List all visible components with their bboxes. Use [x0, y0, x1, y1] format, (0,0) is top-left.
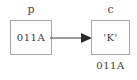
arrow-right-icon — [50, 30, 94, 46]
pointer-variable-value: 011A — [10, 32, 52, 43]
pointer-variable-name-label: p — [10, 3, 52, 16]
target-variable-value: 'K' — [91, 32, 130, 43]
target-variable-address-label: 011A — [88, 60, 133, 71]
pointer-diagram: p 011A c 'K' 011A — [0, 0, 137, 80]
target-variable-name-label: c — [91, 3, 130, 16]
